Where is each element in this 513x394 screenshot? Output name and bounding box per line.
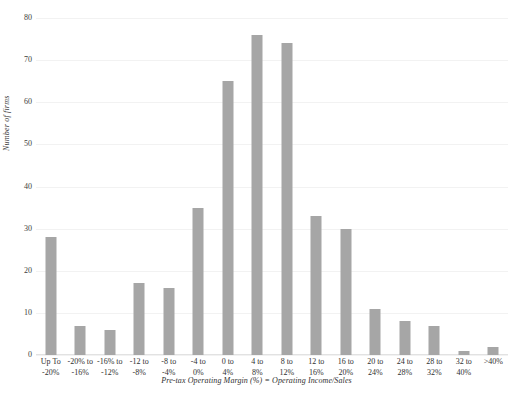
- x-tick-label-line1: 16 to: [338, 357, 354, 366]
- x-tick-label-line1: 8 to: [281, 357, 293, 366]
- plot-area: 01020304050607080: [36, 18, 508, 355]
- bar-slot: [479, 18, 509, 355]
- x-tick-label-line1: 32 to: [456, 357, 472, 366]
- bar-slot: [36, 18, 66, 355]
- gridline: [36, 355, 508, 356]
- bar-slot: [95, 18, 125, 355]
- bar-slot: [243, 18, 273, 355]
- bar-slot: [390, 18, 420, 355]
- histogram-chart: Number of firms 01020304050607080 Up To-…: [0, 0, 513, 394]
- bar-slot: [331, 18, 361, 355]
- y-tick-label: 40: [4, 183, 32, 191]
- x-tick-label-line1: >40%: [484, 357, 503, 366]
- bar[interactable]: [193, 208, 204, 355]
- bar[interactable]: [281, 43, 292, 355]
- y-tick-label: 20: [4, 267, 32, 275]
- bar[interactable]: [252, 35, 263, 355]
- bar-slot: [154, 18, 184, 355]
- bar[interactable]: [75, 326, 86, 355]
- x-tick-label-line1: 24 to: [397, 357, 413, 366]
- bar-slot: [184, 18, 214, 355]
- bar[interactable]: [488, 347, 499, 355]
- bar-slot: [272, 18, 302, 355]
- x-tick-label-line1: 12 to: [308, 357, 324, 366]
- bar[interactable]: [163, 288, 174, 355]
- bar-slot: [449, 18, 479, 355]
- y-tick-label: 80: [4, 14, 32, 22]
- y-tick-label: 30: [4, 225, 32, 233]
- x-tick-label-line1: -12 to: [130, 357, 149, 366]
- x-tick-label-line1: 4 to: [251, 357, 263, 366]
- bar[interactable]: [45, 237, 56, 355]
- bar-slot: [66, 18, 96, 355]
- bar-slot: [420, 18, 450, 355]
- bar[interactable]: [458, 351, 469, 355]
- x-tick-label-line1: 28 to: [426, 357, 442, 366]
- y-tick-label: 50: [4, 140, 32, 148]
- y-tick-label: 10: [4, 309, 32, 317]
- bar-slot: [125, 18, 155, 355]
- y-tick-label: 0: [4, 351, 32, 359]
- bar[interactable]: [399, 321, 410, 355]
- bar[interactable]: [134, 283, 145, 355]
- bar[interactable]: [311, 216, 322, 355]
- y-tick-label: 70: [4, 56, 32, 64]
- x-tick-label-line1: Up To: [41, 357, 61, 366]
- y-tick-label: 60: [4, 98, 32, 106]
- bars-layer: [36, 18, 508, 355]
- x-tick-label-line1: 20 to: [367, 357, 383, 366]
- x-tick-label-line1: 0 to: [222, 357, 234, 366]
- bar-slot: [302, 18, 332, 355]
- x-tick-label-line1: -4 to: [191, 357, 206, 366]
- bar-slot: [213, 18, 243, 355]
- x-axis-title: Pre-tax Operating Margin (%) = Operating…: [0, 376, 513, 385]
- bar[interactable]: [340, 229, 351, 355]
- x-tick-label-line1: -8 to: [161, 357, 176, 366]
- bar[interactable]: [370, 309, 381, 355]
- bar-slot: [361, 18, 391, 355]
- bar[interactable]: [222, 81, 233, 355]
- x-tick-label: >40%: [473, 357, 513, 368]
- bar[interactable]: [104, 330, 115, 355]
- bar[interactable]: [429, 326, 440, 355]
